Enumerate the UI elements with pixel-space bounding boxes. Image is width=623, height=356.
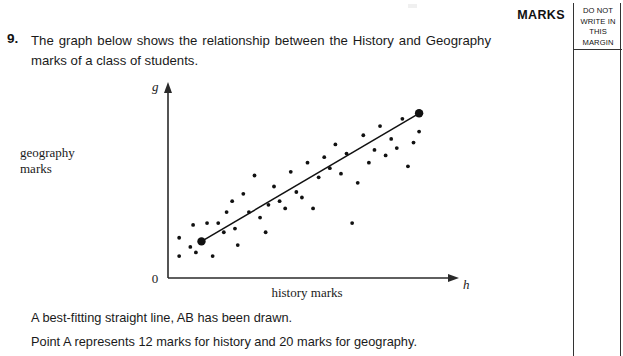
scatter-point [177,254,181,258]
scatter-point [417,130,421,134]
scatter-point [294,190,298,194]
scatter-point [233,227,237,231]
scatter-point [395,146,399,150]
scatter-point [241,192,245,196]
y-axis-variable-label: g [152,79,159,94]
y-axis [164,82,172,278]
scatter-point [177,236,181,240]
margin-note-line-3: THIS [589,27,607,38]
scatter-point [378,124,382,128]
scatter-point [253,174,257,178]
scatter-graph-figure: g h 0 history marks geography marks [75,75,495,305]
scatter-point [412,141,416,145]
x-axis-title: history marks [271,285,342,300]
scatter-point [373,148,377,152]
scatter-point [384,153,388,157]
margin-note-line-1: DO NOT [583,6,613,17]
scatter-point [272,185,276,189]
y-axis-title-line2: marks [20,161,52,176]
marks-label: MARKS [495,8,565,22]
scatter-point [339,172,343,176]
statement-best-fit-line: A best-fitting straight line, AB has bee… [31,310,292,325]
y-axis-title-line1: geography [20,145,75,160]
x-axis-variable-label: h [463,277,470,292]
scatter-point [258,216,262,220]
question-stem-text: The graph below shows the relationship b… [31,31,491,70]
scatter-point [216,221,220,225]
margin-note-box: DO NOT WRITE IN THIS MARGIN [574,5,622,50]
question-number: 9. [7,31,18,46]
scatter-point [322,155,326,159]
x-axis [168,274,459,282]
margin-note-line-2: WRITE IN [581,17,616,28]
do-not-write-margin-column: DO NOT WRITE IN THIS MARGIN [573,3,621,356]
scatter-point [361,133,365,137]
scatter-point [230,199,234,203]
scatter-point [222,230,226,234]
scatter-point [283,207,287,211]
scatter-point [389,137,393,141]
scatter-point [211,254,215,258]
scatter-point [356,181,360,185]
y-axis-title-svg: geography marks [20,143,130,183]
scatter-point [236,243,240,247]
scatter-point [264,230,268,234]
scatter-point [300,196,304,200]
point-b-marker [415,109,423,117]
best-fit-line-group [197,109,423,246]
point-a-marker [197,237,205,245]
best-fit-line [201,113,419,241]
origin-label: 0 [152,271,159,286]
margin-note-line-4: MARGIN [583,38,614,49]
scatter-point [289,170,293,174]
scatter-point [306,161,310,165]
scatter-points-group [177,117,421,258]
page-artifact [408,4,417,8]
scatter-point [367,161,371,165]
scatter-point [334,143,338,147]
scatter-point [188,245,192,249]
scatter-point [194,250,198,254]
scatter-point [406,164,410,168]
scatter-point [350,221,354,225]
scatter-point [311,207,315,211]
scatter-point [278,199,282,203]
scatter-point [205,221,209,225]
scatter-point [225,210,229,214]
scatter-graph-svg: g h 0 history marks [75,75,495,305]
scatter-point [191,223,195,227]
scatter-point [400,117,404,121]
statement-point-a: Point A represents 12 marks for history … [31,334,417,349]
scatter-point [317,175,321,179]
